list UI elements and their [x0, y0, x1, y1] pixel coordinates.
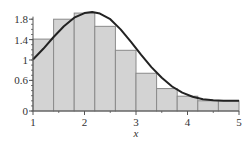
y-tick-label: 1.8 — [14, 13, 28, 25]
histogram-bar — [218, 101, 239, 111]
histogram-bar — [74, 13, 95, 111]
y-tick-label: 0 — [23, 105, 29, 117]
histogram-bar — [136, 73, 157, 111]
histogram-bar — [95, 26, 116, 111]
histogram-bar — [198, 101, 219, 111]
histogram-chart: 00.611.41.8 12345 x — [0, 0, 252, 150]
y-axis-ticks: 00.611.41.8 — [14, 13, 33, 117]
x-tick-label: 5 — [236, 116, 242, 128]
x-tick-label: 1 — [30, 116, 36, 128]
histogram-bar — [177, 96, 198, 111]
x-tick-label: 4 — [185, 116, 191, 128]
x-tick-label: 2 — [82, 116, 88, 128]
y-tick-label: 1.4 — [14, 34, 28, 46]
x-axis-ticks: 12345 — [30, 111, 242, 128]
y-tick-label: 1 — [23, 54, 29, 66]
y-tick-label: 0.6 — [14, 74, 28, 86]
x-axis-label: x — [133, 127, 139, 139]
histogram-bar — [115, 50, 136, 111]
histogram-bar — [157, 89, 178, 111]
histogram-bars — [33, 13, 239, 111]
